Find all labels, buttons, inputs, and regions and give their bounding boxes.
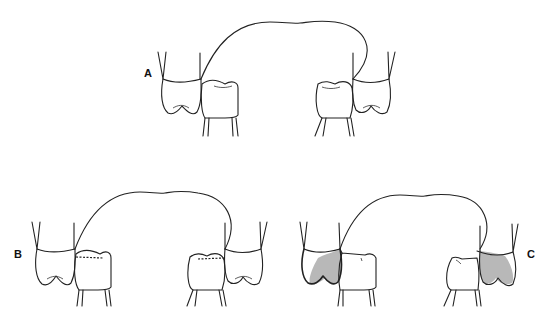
right-lower-premolar-b bbox=[187, 254, 226, 306]
contact-dashed-line-right bbox=[198, 258, 224, 259]
right-upper-molar-a bbox=[352, 52, 395, 114]
left-lower-premolar-a bbox=[201, 80, 238, 136]
right-lower-premolar-c bbox=[444, 257, 481, 306]
arch-curve-b bbox=[75, 191, 231, 249]
panel-label-b: B bbox=[14, 248, 22, 260]
shaded-crown-right bbox=[479, 251, 513, 284]
right-upper-molar-c bbox=[477, 224, 518, 286]
panel-b: B bbox=[14, 191, 267, 306]
panel-a: A bbox=[144, 21, 395, 136]
left-upper-molar-c bbox=[300, 222, 342, 284]
panel-label-a: A bbox=[144, 67, 152, 79]
panel-c: C bbox=[300, 194, 535, 306]
left-upper-molar-b bbox=[32, 222, 75, 285]
left-upper-molar-a bbox=[158, 52, 201, 114]
left-lower-premolar-c bbox=[338, 253, 376, 306]
right-lower-premolar-a bbox=[315, 82, 354, 136]
dental-occlusion-diagram: A B bbox=[0, 0, 550, 321]
panel-label-c: C bbox=[527, 248, 535, 260]
arch-curve-c bbox=[340, 194, 487, 249]
left-lower-premolar-b bbox=[75, 250, 111, 306]
arch-curve-a bbox=[201, 21, 367, 79]
contact-dashed-line-left bbox=[76, 257, 103, 258]
